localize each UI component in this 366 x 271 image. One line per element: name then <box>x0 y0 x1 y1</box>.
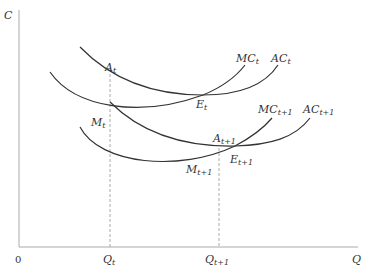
point-a-t: At <box>104 61 117 75</box>
label-mc-t: MCt <box>235 52 260 66</box>
tick-qt: Qt <box>103 253 116 267</box>
label-ac-t1: ACt+1 <box>302 103 334 117</box>
y-axis-label: C <box>4 9 13 22</box>
x-axis-label: Q <box>352 253 361 266</box>
origin-label: 0 <box>15 254 21 265</box>
mc-t-curve <box>50 65 245 107</box>
tick-qt1: Qt+1 <box>205 253 229 267</box>
cost-curves-diagram: C Q 0 Qt Qt+1 MCt ACt MCt+1 ACt+1 At Et … <box>0 0 366 271</box>
point-e-t: Et <box>195 98 208 112</box>
label-mc-t1: MCt+1 <box>257 103 293 117</box>
point-m-t: Mt <box>90 116 106 130</box>
point-m-t1: Mt+1 <box>185 163 212 177</box>
label-ac-t: ACt <box>270 52 291 66</box>
point-a-t1: At+1 <box>212 132 236 146</box>
point-e-t1: Et+1 <box>229 153 253 167</box>
